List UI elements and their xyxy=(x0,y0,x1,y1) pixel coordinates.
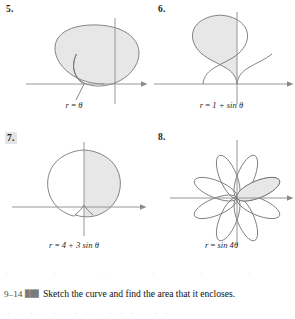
caption-5: r = θ xyxy=(0,100,148,110)
caption-7-eq: = xyxy=(55,240,60,250)
caption-6-eq: = xyxy=(205,100,210,110)
caption-5-rhs: θ xyxy=(78,100,82,110)
caption-7-lhs: r xyxy=(49,240,52,250)
petal-4 xyxy=(191,173,240,206)
curve-7-left xyxy=(48,150,84,216)
curve-6-right-lobe xyxy=(237,54,272,84)
petal-6 xyxy=(212,195,245,244)
faded-text-row-top: . . . . . . . . . . xyxy=(0,268,295,278)
caption-5-lhs: r xyxy=(66,100,69,110)
caption-7-rhs: 4 + 3 sin θ xyxy=(62,240,99,250)
petal-5 xyxy=(191,190,240,223)
problem-panel-5: 5. r = θ xyxy=(0,0,148,128)
x-axis-arrow-5 xyxy=(141,81,148,87)
exercise-separator-bars: ▉▉▉ xyxy=(25,290,39,298)
shaded-region-6 xyxy=(192,15,237,84)
problem-panel-6: 6. r = 1 + sin θ xyxy=(148,0,295,128)
x-axis-arrow-7 xyxy=(140,204,147,210)
problem-panel-7: 7. r = 4 + 3 sin θ xyxy=(0,128,148,263)
caption-8-lhs: r xyxy=(205,240,208,250)
caption-6-rhs: 1 + sin θ xyxy=(212,100,243,110)
exercise-instruction: 9–14▉▉▉Sketch the curve and find the are… xyxy=(4,288,235,299)
caption-8-rhs: sin 4θ xyxy=(217,240,238,250)
x-axis-arrow-8 xyxy=(287,195,294,201)
problem-panel-8: 8. xyxy=(148,128,295,263)
figure-rose-r-equals-sin-4theta xyxy=(148,136,295,251)
caption-8: r = sin 4θ xyxy=(148,240,295,250)
caption-6: r = 1 + sin θ xyxy=(148,100,295,110)
faded-text-row-bottom: . . . .. ... .. xyxy=(0,309,295,319)
faded-text-fragment-bottom: . . . .. ... .. xyxy=(8,309,177,316)
textbook-exercise-page: 5. r = θ 6. xyxy=(0,0,295,319)
caption-7: r = 4 + 3 sin θ xyxy=(0,240,148,250)
caption-8-eq: = xyxy=(210,240,215,250)
exercise-text: Sketch the curve and find the area that … xyxy=(43,288,235,299)
faded-text-fragment-top: . . . . . . . . . . xyxy=(6,268,295,278)
caption-5-eq: = xyxy=(71,100,76,110)
figure-limacon-r-equals-4-plus-3-sin-theta xyxy=(0,136,148,251)
shaded-region-5 xyxy=(55,25,139,84)
exercise-range: 9–14 xyxy=(4,289,22,299)
shaded-petal-8 xyxy=(234,173,283,206)
petal-7 xyxy=(229,195,262,244)
x-axis-arrow-6 xyxy=(287,81,294,87)
caption-6-lhs: r xyxy=(200,100,203,110)
